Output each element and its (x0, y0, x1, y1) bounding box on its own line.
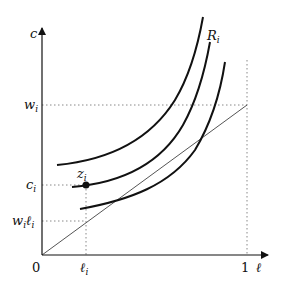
guide-lines (42, 60, 247, 255)
x-axis-label: ℓ (256, 260, 262, 275)
x-tick-one: 1 (241, 260, 249, 275)
y-tick-wi: wi (24, 97, 38, 114)
curve-bottom (80, 62, 225, 209)
indifference-diagram: c ℓ 0 1 wi ci wiℓi ℓi zi Ri (0, 0, 281, 289)
y-axis-label: c (30, 26, 38, 41)
curve-ri-label: Ri (206, 28, 220, 45)
origin-label: 0 (32, 260, 40, 275)
x-tick-li: ℓi (80, 260, 88, 277)
curve-middle (72, 42, 210, 187)
y-tick-wili: wiℓi (12, 213, 34, 230)
y-tick-ci: ci (26, 177, 36, 194)
point-zi-label: zi (76, 166, 87, 183)
budget-line (42, 105, 247, 255)
curve-top (57, 17, 203, 165)
